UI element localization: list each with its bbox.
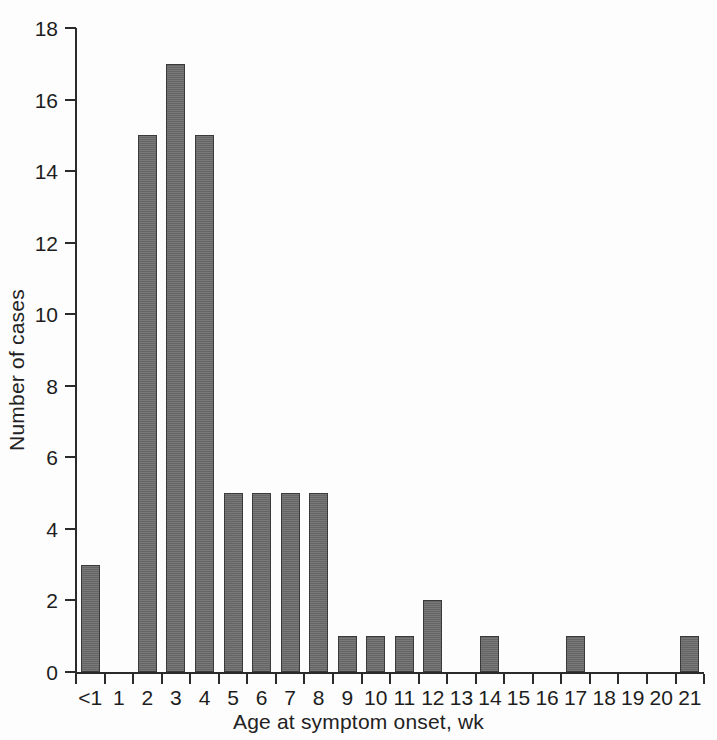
bar — [480, 636, 499, 672]
bar — [309, 493, 328, 672]
bar — [680, 636, 699, 672]
bar — [395, 636, 414, 672]
bar — [281, 493, 300, 672]
plot-area — [0, 0, 717, 740]
bar — [224, 493, 243, 672]
bar — [366, 636, 385, 672]
bar-chart-figure: Number of cases 024681012141618 <1123456… — [0, 0, 717, 740]
bar — [138, 135, 157, 672]
bar — [195, 135, 214, 672]
bar — [166, 64, 185, 672]
bar — [338, 636, 357, 672]
bar — [423, 600, 442, 672]
bar — [81, 565, 100, 672]
x-axis-title: Age at symptom onset, wk — [0, 710, 717, 734]
bar — [566, 636, 585, 672]
bar — [252, 493, 271, 672]
